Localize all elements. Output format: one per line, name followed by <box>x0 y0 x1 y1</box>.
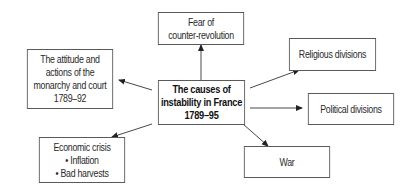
arrow-to-war <box>243 124 268 146</box>
node-text-line: counter-revolution <box>168 29 234 42</box>
node-text-line: 1789–95 <box>184 109 218 122</box>
arrow-to-economic <box>112 124 152 137</box>
node-text-line: Religious divisions <box>299 48 366 61</box>
node-economic-crisis: Economic crisis • Inflation • Bad harves… <box>39 137 125 183</box>
node-fear-of-counter-revolution: Fear of counter-revolution <box>158 12 244 45</box>
central-node-causes-of-instability: The causes of instability in France 1789… <box>158 80 245 125</box>
arrow-to-religious <box>250 70 299 88</box>
node-text-line: War <box>279 156 294 169</box>
node-text-line: • Inflation <box>65 154 98 167</box>
node-text-line: monarchy and court <box>33 79 106 92</box>
node-text-line: actions of the <box>46 66 95 79</box>
node-religious-divisions: Religious divisions <box>289 38 376 71</box>
node-text-line: • Bad harvests <box>55 167 108 180</box>
arrow-to-monarchy <box>119 80 152 90</box>
node-war: War <box>244 146 330 178</box>
node-text-line: Economic crisis <box>53 141 110 154</box>
node-monarchy-and-court: The attitude and actions of the monarchy… <box>27 49 113 109</box>
node-text-line: Political divisions <box>320 103 382 116</box>
node-text-line: Fear of <box>188 16 214 29</box>
node-political-divisions: Political divisions <box>308 93 394 125</box>
node-text-line: The causes of <box>172 83 230 96</box>
node-text-line: 1789–92 <box>54 92 86 105</box>
node-text-line: instability in France <box>161 96 242 109</box>
node-text-line: The attitude and <box>40 53 99 66</box>
